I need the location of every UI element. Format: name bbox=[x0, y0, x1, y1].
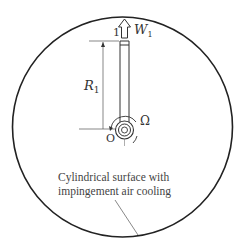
origin-label: O bbox=[106, 132, 115, 145]
rotation-omega-label: Ω bbox=[140, 114, 150, 128]
caption-line-2: impingement air cooling bbox=[58, 184, 208, 198]
outflow-arrow-icon bbox=[119, 19, 131, 38]
station-label: 1 bbox=[113, 26, 120, 39]
surface-caption: Cylindrical surface with impingement air… bbox=[58, 170, 208, 198]
velocity-label: W1 bbox=[134, 22, 152, 39]
rotation-hub bbox=[116, 121, 134, 146]
radial-tube bbox=[120, 41, 129, 122]
caption-line-1: Cylindrical surface with bbox=[58, 170, 208, 184]
rotating-channel-diagram: 1 W1 R1 Ω O bbox=[0, 0, 244, 248]
caption-leader-line bbox=[115, 200, 138, 235]
radius-label: R1 bbox=[83, 78, 100, 95]
